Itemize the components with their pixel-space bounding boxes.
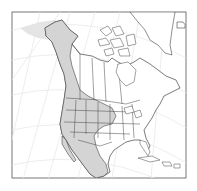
iceland: [177, 22, 185, 28]
map-canvas: [0, 0, 197, 191]
range-map: [0, 0, 197, 191]
